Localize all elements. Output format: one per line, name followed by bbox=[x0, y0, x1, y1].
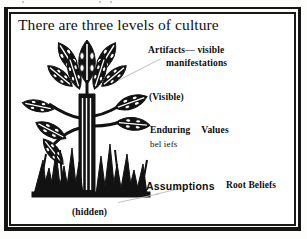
label-enduring: Enduring bbox=[150, 125, 190, 135]
plant-illustration bbox=[16, 32, 166, 204]
scan-speck bbox=[22, 1, 24, 3]
figure-border-left-rule bbox=[6, 9, 8, 229]
label-artifacts-line2: manifestations bbox=[148, 57, 227, 70]
figure-border-bottom-rule bbox=[6, 227, 300, 229]
label-artifacts-line1: Artifacts— visible bbox=[148, 45, 224, 55]
scan-speck bbox=[99, 1, 101, 3]
label-beliefs: bel iefs bbox=[150, 137, 229, 151]
scan-speck bbox=[110, 1, 112, 3]
screenshot-root: There are three levels of culture bbox=[0, 0, 307, 239]
label-hidden: (hidden) bbox=[72, 207, 107, 217]
label-visible: (Visible) bbox=[149, 92, 184, 102]
label-assumptions: Assumptions bbox=[146, 180, 215, 192]
label-enduring-values: EnduringValues bel iefs bbox=[150, 123, 229, 151]
label-artifacts: Artifacts— visible manifestations bbox=[148, 44, 227, 70]
label-values: Values bbox=[201, 125, 228, 135]
label-root-beliefs: Root Beliefs bbox=[226, 180, 276, 190]
figure-border-right-rule bbox=[298, 9, 300, 229]
